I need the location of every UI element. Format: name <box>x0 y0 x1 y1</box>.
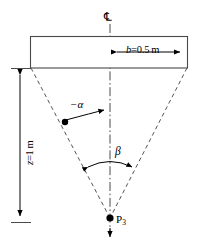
right-ray <box>110 68 187 218</box>
left-ray <box>31 68 110 218</box>
figure-drawing <box>0 0 201 245</box>
alpha-angle-label: −α <box>70 99 83 110</box>
z-variable: z <box>24 161 35 165</box>
z-value: 1 <box>24 150 35 155</box>
b-unit: m <box>151 44 159 55</box>
field-point-dot <box>106 214 113 221</box>
z-unit: m <box>24 140 35 148</box>
field-point-label: P3 <box>116 214 126 227</box>
alpha-angle-arc <box>62 110 104 125</box>
b-value: 0.5 <box>137 44 150 55</box>
centerline-symbol: ℄ <box>104 11 112 23</box>
b-dimension-label: b=0.5 m <box>126 45 159 56</box>
field-point-subscript: 3 <box>122 218 126 227</box>
beta-angle-label: β <box>115 146 121 158</box>
alpha-vertex-dot <box>62 119 68 125</box>
figure-container: ℄ b=0.5 m z=1 m −α β P3 <box>0 0 201 245</box>
z-equals: = <box>24 155 35 161</box>
z-dimension-label: z=1 m <box>25 140 36 165</box>
